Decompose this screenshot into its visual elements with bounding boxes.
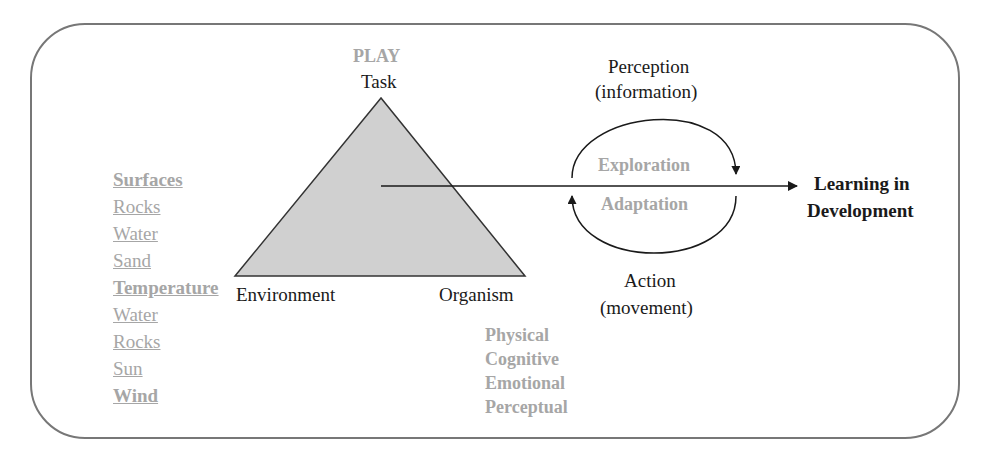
environment-factors-list: Surfaces Rocks Water Sand Temperature Wa… — [113, 166, 219, 409]
perception-label: Perception — [608, 57, 689, 76]
task-label: Task — [361, 72, 397, 91]
factor-rocks: Rocks — [113, 193, 219, 220]
factor-temperature: Temperature — [113, 274, 219, 301]
organism-label: Organism — [439, 285, 514, 304]
outcome-line2: Development — [807, 201, 914, 220]
adaptation-label: Adaptation — [601, 195, 688, 213]
facet-emotional: Emotional — [485, 371, 568, 395]
factor-surfaces: Surfaces — [113, 166, 219, 193]
factor-water: Water — [113, 220, 219, 247]
factor-wind: Wind — [113, 382, 219, 409]
organism-factors-list: Physical Cognitive Emotional Perceptual — [485, 323, 568, 419]
factor-rocks-2: Rocks — [113, 328, 219, 355]
action-label: Action — [624, 271, 676, 290]
factor-sand: Sand — [113, 247, 219, 274]
action-sublabel: (movement) — [600, 298, 693, 317]
factor-water-2: Water — [113, 301, 219, 328]
environment-label: Environment — [236, 285, 335, 304]
play-heading: PLAY — [353, 47, 400, 65]
facet-cognitive: Cognitive — [485, 347, 568, 371]
task-triangle — [235, 98, 525, 276]
factor-sun: Sun — [113, 355, 219, 382]
facet-perceptual: Perceptual — [485, 395, 568, 419]
outcome-line1: Learning in — [814, 174, 910, 193]
facet-physical: Physical — [485, 323, 568, 347]
perception-sublabel: (information) — [595, 82, 697, 101]
exploration-label: Exploration — [598, 156, 690, 174]
